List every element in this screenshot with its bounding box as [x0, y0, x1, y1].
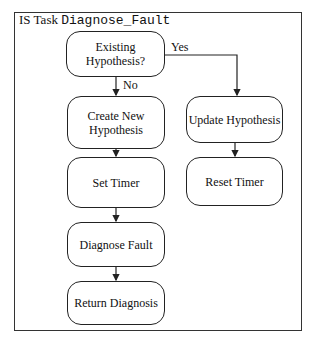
node-update-hypothesis: Update Hypothesis — [186, 96, 283, 143]
node-create-new-hypothesis: Create New Hypothesis — [67, 96, 165, 149]
node-diagnose-fault: Diagnose Fault — [67, 222, 165, 267]
node-existing-hypothesis: Existing Hypothesis? — [66, 31, 165, 77]
edge-existing-update — [165, 55, 237, 95]
edge-label-no: No — [123, 78, 138, 93]
edge-label-yes: Yes — [171, 40, 188, 55]
node-return-diagnosis: Return Diagnosis — [67, 281, 165, 325]
node-set-timer: Set Timer — [67, 157, 165, 208]
node-reset-timer: Reset Timer — [186, 157, 283, 206]
